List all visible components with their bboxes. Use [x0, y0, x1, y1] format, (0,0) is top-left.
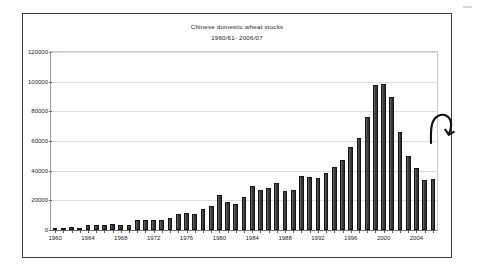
x-axis-tick-mark — [154, 230, 155, 233]
bar — [373, 85, 378, 230]
x-axis-tick-mark — [244, 230, 245, 233]
x-axis-tick-mark — [211, 230, 212, 233]
bar — [201, 209, 206, 230]
x-axis-tick-label: 1988 — [278, 235, 291, 241]
bar — [365, 117, 370, 230]
x-axis-tick-mark — [343, 230, 344, 233]
x-axis-tick-mark — [145, 230, 146, 233]
bar — [258, 190, 263, 230]
x-axis-tick-mark — [326, 230, 327, 233]
bar — [176, 214, 181, 230]
x-axis-tick-label: 1964 — [81, 235, 94, 241]
page-title: Chinese domestic wheat stocks — [23, 21, 451, 32]
plot-area: 020000400006000080000100000120000 196019… — [50, 51, 438, 231]
y-axis-tick-mark — [49, 200, 52, 201]
x-axis-tick-mark — [310, 230, 311, 233]
bar — [209, 206, 214, 230]
y-axis-tick-mark — [49, 230, 52, 231]
gridline — [51, 111, 437, 112]
x-axis-tick-label: 1972 — [147, 235, 160, 241]
bar — [184, 213, 189, 230]
y-axis-tick-mark — [49, 52, 52, 53]
x-axis-tick-mark — [121, 230, 122, 233]
bar — [357, 138, 362, 230]
y-axis-tick-label: 0 — [45, 227, 48, 233]
x-axis-tick-mark — [367, 230, 368, 233]
bar — [389, 97, 394, 231]
y-axis-tick-label: 100000 — [28, 79, 48, 85]
bar — [299, 176, 304, 230]
x-axis-tick-mark — [252, 230, 253, 233]
x-axis-tick-label: 1984 — [246, 235, 259, 241]
x-axis-tick-mark — [334, 230, 335, 233]
x-axis-tick-mark — [285, 230, 286, 233]
x-axis-tick-label: 1968 — [114, 235, 127, 241]
bar — [431, 179, 436, 230]
x-axis-tick-mark — [113, 230, 114, 233]
bar — [143, 220, 148, 230]
x-axis-tick-label: 1980 — [213, 235, 226, 241]
y-axis-tick-label: 40000 — [31, 168, 48, 174]
x-axis-tick-mark — [72, 230, 73, 233]
x-axis-tick-mark — [80, 230, 81, 233]
x-axis-tick-mark — [400, 230, 401, 233]
x-axis-tick-label: 2000 — [377, 235, 390, 241]
y-axis-tick-label: 80000 — [31, 108, 48, 114]
y-axis-tick-mark — [49, 111, 52, 112]
x-axis-tick-mark — [384, 230, 385, 233]
scan-noise-band — [300, 0, 489, 10]
x-axis-tick-label: 1996 — [344, 235, 357, 241]
x-axis-tick-mark — [260, 230, 261, 233]
x-axis-tick-mark — [162, 230, 163, 233]
chart-frame: Chinese domestic wheat stocks 1960/61- 2… — [22, 13, 452, 258]
bar — [340, 160, 345, 230]
x-axis-tick-mark — [55, 230, 56, 233]
x-axis-tick-label: 1992 — [311, 235, 324, 241]
x-axis-tick-mark — [408, 230, 409, 233]
gridline — [51, 141, 437, 142]
x-axis-tick-mark — [203, 230, 204, 233]
x-axis-tick-mark — [359, 230, 360, 233]
bar — [324, 173, 329, 230]
bar — [283, 191, 288, 230]
bar — [406, 156, 411, 230]
bar — [316, 178, 321, 230]
x-axis-tick-label: 2004 — [410, 235, 423, 241]
bar — [192, 214, 197, 230]
x-axis-tick-mark — [416, 230, 417, 233]
y-axis-tick-label: 60000 — [31, 138, 48, 144]
x-axis-tick-mark — [433, 230, 434, 233]
x-axis-tick-mark — [277, 230, 278, 233]
x-axis-tick-mark — [195, 230, 196, 233]
x-axis-tick-mark — [351, 230, 352, 233]
x-axis-tick-mark — [129, 230, 130, 233]
x-axis-tick-label: 1960 — [48, 235, 61, 241]
bar — [307, 177, 312, 230]
x-axis-tick-mark — [375, 230, 376, 233]
chart-subtitle: 1960/61- 2006/07 — [23, 32, 451, 43]
y-axis-tick-label: 20000 — [31, 197, 48, 203]
bar — [291, 190, 296, 230]
x-axis-tick-mark — [178, 230, 179, 233]
bar — [422, 180, 427, 230]
y-axis-tick-mark — [49, 82, 52, 83]
x-axis-tick-mark — [96, 230, 97, 233]
bar — [398, 132, 403, 230]
x-axis-tick-mark — [137, 230, 138, 233]
x-axis-tick-mark — [63, 230, 64, 233]
x-axis-tick-mark — [236, 230, 237, 233]
bar — [168, 218, 173, 230]
bar — [217, 195, 222, 230]
y-axis-tick-mark — [49, 141, 52, 142]
bar — [159, 220, 164, 230]
bar — [348, 147, 353, 230]
bar — [242, 197, 247, 230]
bar — [381, 84, 386, 230]
x-axis-tick-label: 1976 — [180, 235, 193, 241]
y-axis-tick-mark — [49, 171, 52, 172]
x-axis-tick-mark — [228, 230, 229, 233]
bar — [250, 186, 255, 230]
x-axis-tick-mark — [269, 230, 270, 233]
y-axis-tick-label: 120000 — [28, 49, 48, 55]
x-axis-tick-mark — [219, 230, 220, 233]
